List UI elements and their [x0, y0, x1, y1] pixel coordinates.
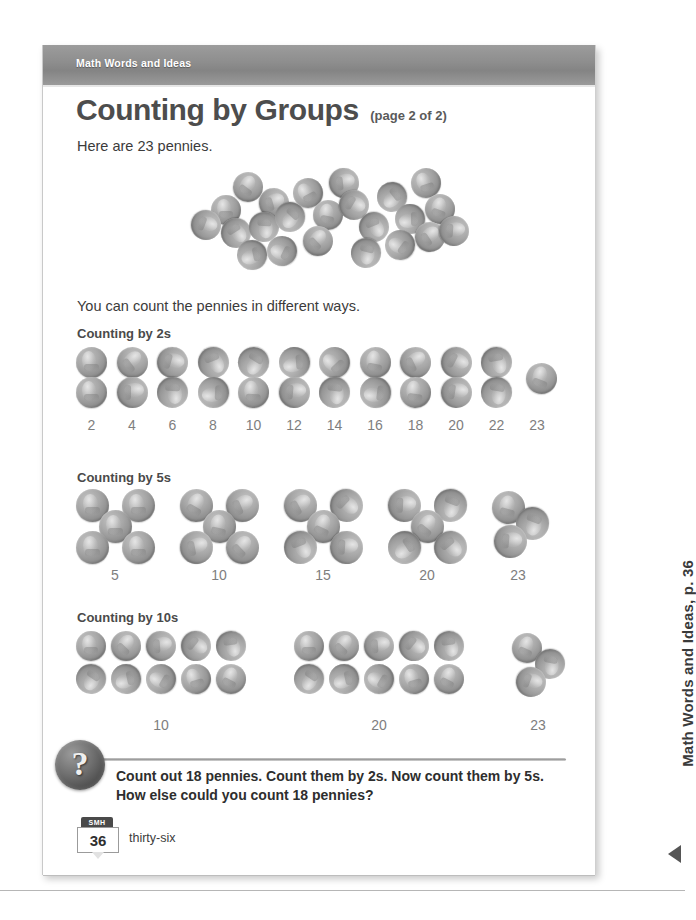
- penny-coin: [116, 377, 148, 409]
- smh-book-icon: SMH 36: [77, 817, 117, 855]
- penny-coin: [438, 375, 473, 410]
- penny-coin: [175, 625, 217, 667]
- penny-coin: [197, 376, 230, 409]
- penny-coin: [323, 625, 365, 667]
- penny-coin: [393, 625, 435, 667]
- page-title-row: Counting by Groups (page 2 of 2): [76, 93, 576, 127]
- penny-coin: [329, 530, 364, 565]
- penny-coin: [76, 377, 107, 408]
- question-callout: Count out 18 pennies. Count them by 2s. …: [43, 740, 595, 810]
- count-label: 10: [174, 567, 264, 583]
- penny-coin: [105, 625, 147, 667]
- penny-coin: [76, 347, 107, 378]
- penny-coin: [357, 344, 393, 380]
- penny-coin: [429, 659, 469, 699]
- penny-coin: [108, 661, 144, 697]
- count-label: 5: [70, 567, 160, 583]
- page-title-note: (page 2 of 2): [370, 108, 447, 123]
- penny-coin: [214, 629, 248, 663]
- penny-coin: [294, 631, 324, 661]
- penny-coin: [76, 531, 109, 564]
- penny-coin: [358, 658, 399, 699]
- callout-divider: [99, 758, 566, 761]
- penny-coin: [76, 631, 106, 661]
- smh-badge-label: SMH: [81, 819, 113, 826]
- page-number: 36: [78, 832, 118, 849]
- penny-coin: [521, 359, 561, 399]
- question-text: Count out 18 pennies. Count them by 2s. …: [116, 767, 556, 805]
- penny-coin: [122, 531, 155, 564]
- penny-coin: [326, 661, 362, 697]
- page-footer: SMH 36 thirty-six: [43, 817, 595, 857]
- penny-coin: [140, 658, 181, 699]
- question-mark-icon: [55, 740, 105, 790]
- penny-coin: [358, 375, 393, 410]
- intro-text: Here are 23 pennies.: [77, 138, 212, 154]
- section-heading-5s: Counting by 5s: [77, 470, 171, 485]
- page-number-word: thirty-six: [129, 831, 176, 845]
- book-body: 36: [77, 827, 119, 853]
- penny-coin: [317, 375, 351, 409]
- penny-coin: [288, 658, 330, 700]
- bottom-divider: [0, 890, 685, 891]
- penny-coin: [277, 346, 311, 380]
- textbook-page: Math Words and Ideas Counting by Groups …: [42, 45, 596, 875]
- penny-coin: [211, 659, 251, 699]
- count-label: 23: [510, 717, 566, 733]
- section-heading-2s: Counting by 2s: [77, 326, 171, 341]
- penny-coin: [479, 375, 515, 411]
- penny-coin: [177, 660, 214, 697]
- penny-coin: [363, 630, 395, 662]
- penny-coin: [156, 376, 188, 408]
- penny-coin: [395, 660, 432, 697]
- count-label: 20: [382, 567, 472, 583]
- page-header-bar: Math Words and Ideas: [43, 45, 595, 87]
- penny-coin: [237, 376, 270, 409]
- count-label: 23: [498, 567, 538, 583]
- section-heading-10s: Counting by 10s: [77, 610, 178, 625]
- penny-coin: [479, 345, 515, 381]
- penny-coin: [70, 658, 112, 700]
- page-title: Counting by Groups: [76, 93, 359, 127]
- header-label: Math Words and Ideas: [76, 57, 191, 69]
- count-label: 20: [294, 717, 464, 733]
- penny-coin: [145, 630, 177, 662]
- penny-coin: [398, 375, 433, 410]
- count-label: 15: [278, 567, 368, 583]
- margin-label: Math Words and Ideas, p. 36: [679, 560, 696, 767]
- penny-coin: [153, 343, 191, 381]
- pennies-pile: [163, 160, 483, 275]
- penny-coin: [277, 376, 311, 410]
- lead-text: You can count the pennies in different w…: [77, 298, 360, 314]
- count-label: 23: [514, 417, 561, 433]
- count-label: 10: [76, 717, 246, 733]
- penny-coin: [432, 629, 466, 663]
- left-triangle-icon: [668, 845, 681, 863]
